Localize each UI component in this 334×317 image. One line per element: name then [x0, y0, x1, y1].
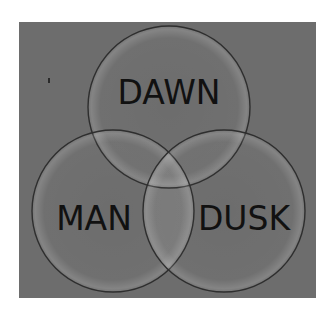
- man-label: MAN: [56, 199, 132, 238]
- speck-mark: [48, 78, 50, 83]
- dawn-label: DAWN: [118, 73, 221, 112]
- dusk-label: DUSK: [198, 199, 292, 238]
- venn-diagram: DAWN MAN DUSK: [0, 0, 334, 317]
